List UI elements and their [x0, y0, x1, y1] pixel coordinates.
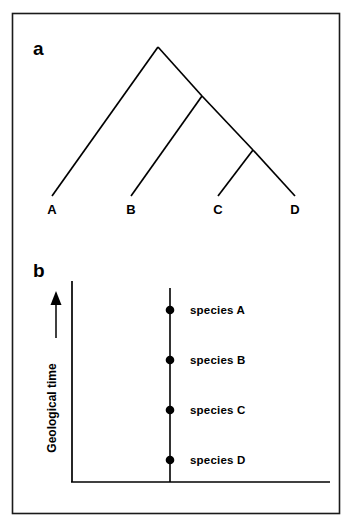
scientific-figure: a A B C D — [0, 0, 350, 527]
occurrence-label-species-a: species A — [190, 304, 245, 316]
occurrence-dot-species-d — [166, 456, 175, 465]
y-axis-title: Geological time — [45, 363, 59, 453]
occurrence-dot-species-a — [166, 306, 175, 315]
tip-label-d: D — [290, 202, 299, 217]
tip-label-b: B — [126, 202, 135, 217]
occurrence-dot-species-c — [166, 406, 175, 415]
panel-b-letter: b — [33, 260, 45, 281]
panel-a-letter: a — [33, 38, 44, 59]
occurrence-label-species-d: species D — [190, 454, 246, 466]
occurrence-label-species-b: species B — [190, 354, 246, 366]
figure-container: a A B C D — [0, 0, 350, 527]
figure-border — [13, 14, 340, 514]
occurrence-dot-species-b — [166, 356, 175, 365]
tip-label-a: A — [47, 202, 57, 217]
occurrence-label-species-c: species C — [190, 404, 246, 416]
tip-label-c: C — [213, 202, 223, 217]
